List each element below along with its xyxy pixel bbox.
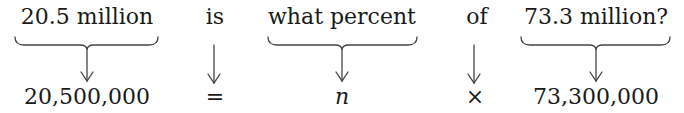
value-73300000: 73,300,000 [533, 84, 659, 110]
underbrace-icon [268, 37, 417, 50]
underbrace-icon [521, 37, 670, 50]
down-arrow-icon [468, 45, 480, 83]
value-20500000: 20,500,000 [24, 84, 150, 110]
down-arrow-icon [336, 50, 348, 81]
down-arrow-icon [590, 50, 602, 81]
down-arrow-icon [208, 45, 220, 83]
variable-n: n [335, 84, 349, 110]
times-sign: × [466, 84, 484, 110]
down-arrow-icon [81, 50, 93, 81]
underbrace-icon [15, 37, 158, 50]
equals-sign: = [206, 84, 224, 110]
